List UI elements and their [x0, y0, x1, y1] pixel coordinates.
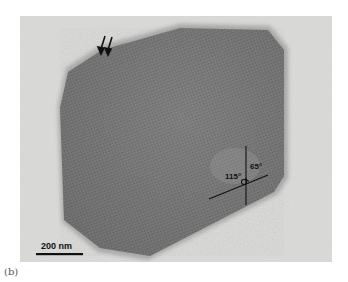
- angle-label-65: 65°: [250, 162, 262, 171]
- micrograph-canvas: [20, 16, 332, 262]
- tem-micrograph: 200 nm 115° 65°: [20, 16, 332, 262]
- scale-bar: [36, 253, 83, 255]
- scale-bar-label: 200 nm: [41, 241, 72, 251]
- angle-label-115: 115°: [225, 172, 241, 181]
- panel-label: (b): [4, 266, 18, 277]
- figure: 200 nm 115° 65° (b): [0, 0, 348, 282]
